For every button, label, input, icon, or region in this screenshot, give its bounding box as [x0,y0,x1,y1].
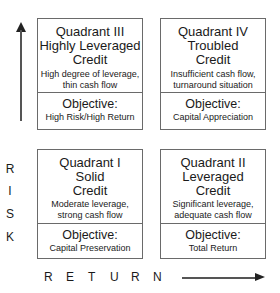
objective-value: Capital Preservation [38,243,142,254]
quadrant-objective: Objective: Capital Preservation [38,224,142,254]
quadrant-objective: Objective: Capital Appreciation [161,93,265,123]
quadrant-description: thin cash flow [38,80,142,91]
risk-label-letter: K [3,230,17,244]
quadrant-iv-box: Quadrant IV Troubled Credit Insufficient… [160,18,266,130]
quadrant-title: Quadrant III [38,25,142,39]
quadrant-title: Quadrant IV [161,25,265,39]
objective-label: Objective: [161,228,265,242]
objective-value: Total Return [161,243,265,254]
risk-label-letter: R [3,162,17,176]
quadrant-description: Significant leverage, [161,199,265,210]
return-label-letter: N [153,270,162,284]
quadrant-header: Quadrant III Highly Leveraged Credit Hig… [38,19,142,93]
quadrant-objective: Objective: Total Return [161,224,265,254]
risk-axis-line [20,30,22,121]
quadrant-description: Insufficient cash flow, [161,69,265,80]
quadrant-subtitle: Credit [38,184,142,198]
return-label-letter: R [44,270,53,284]
quadrant-subtitle: Leveraged [161,170,265,184]
return-label-letter: E [66,270,74,284]
return-label-letter: U [110,270,119,284]
quadrant-description: High degree of leverage, [38,69,142,80]
quadrant-subtitle: Credit [38,53,142,67]
quadrant-description: Moderate leverage, [38,199,142,210]
objective-label: Objective: [38,97,142,111]
return-axis-line [182,277,257,279]
quadrant-objective: Objective: High Risk/High Return [38,93,142,123]
quadrant-description: adequate cash flow [161,210,265,221]
quadrant-i-box: Quadrant I Solid Credit Moderate leverag… [37,149,143,259]
arrow-right-icon [255,273,265,281]
risk-label-letter: S [3,207,17,221]
quadrant-description: strong cash flow [38,210,142,221]
quadrant-header: Quadrant II Leveraged Credit Significant… [161,150,265,224]
objective-label: Objective: [38,228,142,242]
objective-label: Objective: [161,97,265,111]
quadrant-header: Quadrant IV Troubled Credit Insufficient… [161,19,265,93]
quadrant-ii-box: Quadrant II Leveraged Credit Significant… [160,149,266,259]
objective-value: High Risk/High Return [38,112,142,123]
quadrant-title: Quadrant I [38,156,142,170]
quadrant-subtitle: Troubled [161,39,265,53]
quadrant-subtitle: Credit [161,53,265,67]
objective-value: Capital Appreciation [161,112,265,123]
quadrant-title: Quadrant II [161,156,265,170]
quadrant-subtitle: Solid [38,170,142,184]
quadrant-description: turnaround situation [161,80,265,91]
quadrant-subtitle: Credit [161,184,265,198]
return-label-letter: R [131,270,140,284]
return-label-letter: T [88,270,95,284]
quadrant-header: Quadrant I Solid Credit Moderate leverag… [38,150,142,224]
risk-label-letter: I [3,184,17,198]
quadrant-subtitle: Highly Leveraged [38,39,142,53]
quadrant-iii-box: Quadrant III Highly Leveraged Credit Hig… [37,18,143,130]
